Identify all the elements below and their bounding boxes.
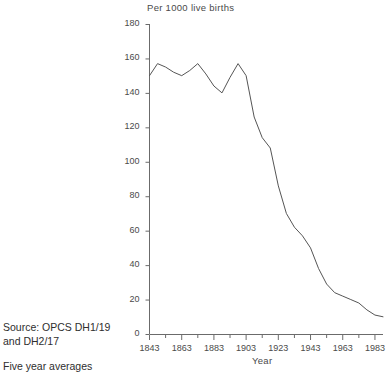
source-line-1: Source: OPCS DH1/19	[3, 320, 135, 334]
x-axis-ticks	[150, 335, 375, 340]
source-note: Source: OPCS DH1/19 and DH2/17	[3, 320, 135, 348]
y-tick-label: 20	[114, 294, 140, 304]
x-tick-label: 1963	[326, 343, 360, 353]
y-tick-label: 60	[114, 225, 140, 235]
y-tick-label: 160	[114, 52, 140, 62]
source-line-2: and DH2/17	[3, 334, 135, 348]
y-tick-label: 120	[114, 121, 140, 131]
y-tick-label: 100	[114, 156, 140, 166]
infant-mortality-chart: Per 1000 live births 0204060801001201401…	[0, 0, 388, 379]
x-tick-label: 1923	[261, 343, 295, 353]
x-tick-label: 1843	[133, 343, 167, 353]
x-tick-label: 1983	[358, 343, 388, 353]
y-axis-ticks	[146, 25, 150, 335]
x-tick-label: 1883	[197, 343, 231, 353]
x-tick-label: 1943	[294, 343, 328, 353]
axis-lines	[150, 24, 384, 335]
x-tick-label: 1903	[229, 343, 263, 353]
averaging-note: Five year averages	[3, 359, 135, 373]
source-note-block: Source: OPCS DH1/19 and DH2/17 Five year…	[3, 320, 135, 373]
x-tick-label: 1863	[165, 343, 199, 353]
y-tick-label: 80	[114, 190, 140, 200]
y-tick-label: 180	[114, 18, 140, 28]
y-tick-label: 140	[114, 87, 140, 97]
series-line-infant-mortality	[150, 64, 384, 317]
x-axis-title: Year	[252, 355, 272, 366]
y-tick-label: 40	[114, 259, 140, 269]
